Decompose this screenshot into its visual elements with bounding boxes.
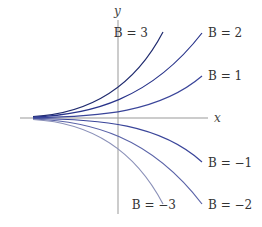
y-axis-label: y (113, 4, 121, 18)
curve-b3 (33, 32, 163, 117)
label-b2: B = 2 (208, 26, 242, 40)
exponential-family-plot: x y B = 3 B = 2 B = 1 B = −1 B = −2 B = … (0, 0, 262, 227)
label-bm2: B = −2 (208, 198, 252, 212)
label-bm3: B = −3 (132, 198, 176, 212)
label-bm1: B = −1 (208, 156, 252, 170)
x-axis-label: x (214, 111, 221, 125)
label-b1: B = 1 (208, 69, 242, 83)
label-b3: B = 3 (114, 26, 148, 40)
curve-bm3 (33, 120, 163, 205)
